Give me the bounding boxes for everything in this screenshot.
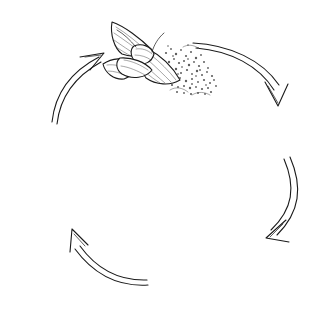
canvas-background — [0, 0, 328, 331]
lifecycle-illustration — [0, 0, 328, 331]
lifecycle-diagram: Insect Life Cycle — [0, 0, 328, 331]
